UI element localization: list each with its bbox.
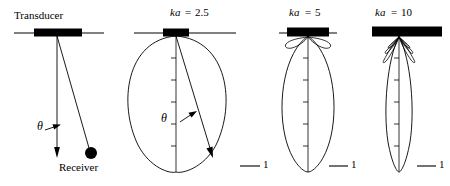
- receiver-ray: [57, 36, 89, 148]
- axis-ticks: [171, 58, 176, 146]
- beampattern-ka-2p5: [140, 0, 275, 186]
- panel-ka-5: ka = 5 1: [275, 0, 363, 186]
- axis-ticks: [303, 58, 308, 146]
- panel-setup: Transducer θ Receiver: [0, 0, 140, 186]
- panel-ka-10: ka = 10 1: [363, 0, 450, 186]
- setup-drawing: [0, 0, 140, 186]
- theta-pointer-arrowhead: [188, 111, 197, 118]
- beampattern-ka-10: [363, 0, 450, 186]
- transducer-bar: [287, 28, 329, 37]
- beampattern-ka-5: [275, 0, 363, 186]
- sidelobe-left-2: [385, 37, 399, 54]
- receiver-dot: [85, 147, 97, 159]
- theta-ray-arrowhead: [206, 146, 213, 158]
- sidelobe-right-2: [399, 37, 413, 54]
- figure-canvas: Transducer θ Receiver ka = 2.5 θ 1: [0, 0, 450, 186]
- axis-arrowhead: [54, 147, 60, 158]
- transducer-bar: [372, 27, 442, 37]
- panel-ka-2p5: ka = 2.5 θ 1: [140, 0, 275, 186]
- theta-ray: [176, 36, 210, 148]
- transducer-bar: [163, 29, 189, 37]
- axis-ticks: [394, 58, 399, 146]
- transducer-bar: [34, 29, 82, 37]
